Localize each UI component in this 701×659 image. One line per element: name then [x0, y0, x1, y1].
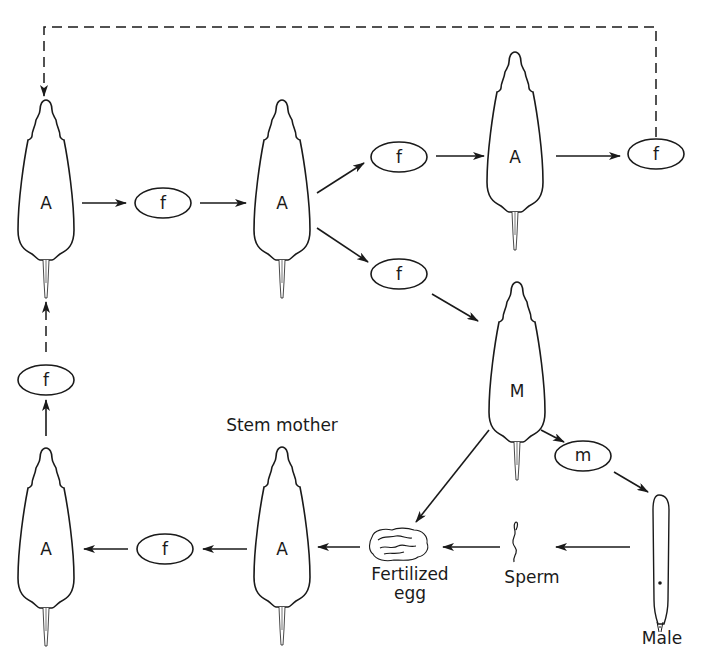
oval-f-1-label: f [160, 195, 166, 212]
oval-f-bottom-label: f [162, 541, 168, 558]
stem-mother-label: A [276, 541, 288, 558]
oval-f-right-label: f [653, 146, 659, 163]
sperm-caption: Sperm [504, 568, 559, 587]
stem-mother-caption: Stem mother [226, 416, 338, 435]
fertilized-egg-caption-line1: Fertilized [371, 565, 448, 584]
fertilized-egg-icon [370, 528, 428, 561]
oval-m-label: m [575, 447, 592, 464]
fertilized-egg-caption-line2: egg [371, 584, 448, 603]
oval-f-left-label: f [43, 372, 49, 389]
aphid-top-right-label: A [509, 149, 521, 166]
arrows [46, 156, 648, 549]
dashed-return-line [44, 27, 656, 352]
oval-f-upper-label: f [396, 149, 402, 166]
aphid-top-middle-label: A [276, 195, 288, 212]
aphid-bottom-left-label: A [40, 541, 52, 558]
aphid-sexual-label: M [510, 383, 525, 400]
sperm-icon [513, 522, 518, 562]
oval-f-lower-label: f [396, 266, 402, 283]
male-aphid [653, 495, 669, 632]
male-caption: Male [642, 629, 682, 648]
fertilized-egg-caption: Fertilized egg [371, 565, 448, 603]
aphid-top-left-label: A [40, 195, 52, 212]
aphid-life-cycle-diagram [0, 0, 701, 659]
